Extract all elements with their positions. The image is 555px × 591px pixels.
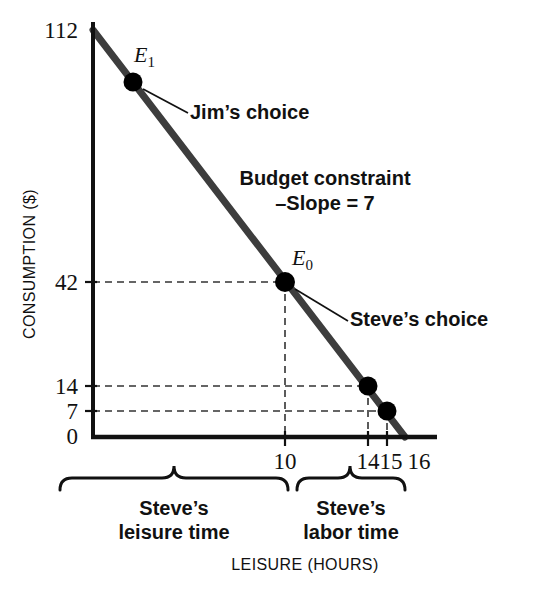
labor-brace-label-line1: Steve’s (291, 497, 411, 520)
data-point-E1[interactable] (124, 73, 143, 92)
slope-label: –Slope = 7 (215, 192, 435, 215)
x-tick-label-10: 10 (255, 449, 315, 475)
data-point-E0[interactable] (275, 272, 295, 292)
y-tick-label-112: 112 (14, 18, 78, 44)
labor-brace-label-line2: labor time (291, 521, 411, 544)
x-axis-title: LEISURE (HOURS) (140, 556, 470, 574)
budget-constraint-line (93, 30, 405, 437)
y-tick-label-7: 7 (14, 399, 78, 425)
point-label-E0-letter: E (292, 245, 305, 270)
leisure-time-brace (60, 466, 288, 490)
point-label-E1-sub: 1 (147, 54, 155, 70)
x-tick-label-16: 16 (392, 449, 446, 475)
point-label-E1: E1 (134, 42, 155, 71)
leisure-brace-label-line2: leisure time (64, 521, 284, 544)
point-label-E0-sub: 0 (305, 257, 313, 273)
leisure-brace-label-line1: Steve’s (64, 497, 284, 520)
jims-choice-label: Jim’s choice (190, 101, 309, 124)
data-point-14[interactable] (359, 377, 378, 396)
point-label-E0: E0 (292, 245, 313, 274)
y-axis-title: CONSUMPTION ($) (21, 154, 39, 374)
y-tick-label-14: 14 (14, 374, 78, 400)
steves-choice-label: Steve’s choice (350, 308, 488, 331)
budget-constraint-label: Budget constraint (215, 167, 435, 190)
y-tick-label-0: 0 (14, 424, 78, 450)
budget-constraint-chart: 112 42 14 7 0 10 14 15 16 E1 E0 Jim’s ch… (0, 0, 555, 591)
point-label-E1-letter: E (134, 42, 147, 67)
data-point-15[interactable] (378, 402, 397, 421)
